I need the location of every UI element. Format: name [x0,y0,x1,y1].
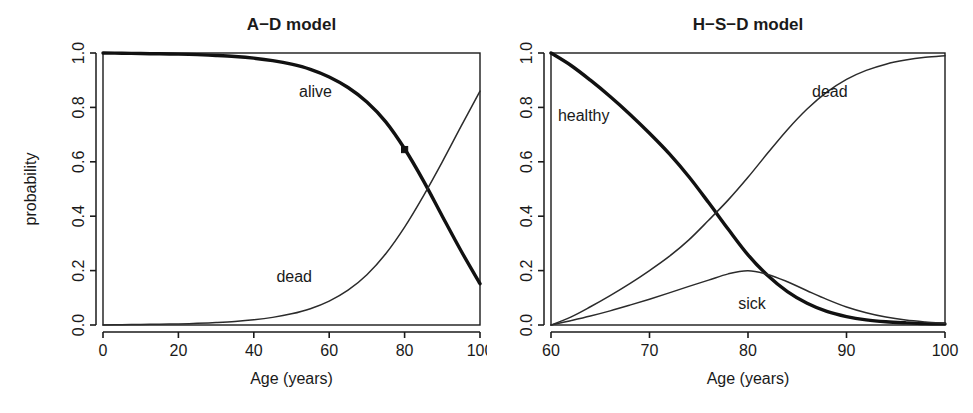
y-tick-label: 0.8 [70,96,87,118]
chart-title: A−D model [247,15,336,34]
x-tick-label: 80 [739,342,757,359]
y-tick-label: 0.0 [518,314,535,336]
y-tick-label: 0.4 [518,205,535,227]
x-tick-label: 70 [641,342,659,359]
chart-a-d-model: A−D model020406080100Age (years)0.00.20.… [0,0,487,413]
x-tick-label: 80 [396,342,414,359]
series-label-sick: sick [738,295,767,312]
y-tick-label: 0.4 [70,205,87,227]
y-tick-label: 0.8 [518,96,535,118]
x-tick-label: 40 [245,342,263,359]
y-tick-label: 0.2 [70,259,87,281]
x-tick-label: 100 [932,342,959,359]
series-curve-dead [103,91,480,325]
series-curve-alive [103,53,480,284]
y-tick-label: 0.6 [518,151,535,173]
x-tick-label: 60 [542,342,560,359]
x-tick-label: 60 [320,342,338,359]
series-curve-healthy [551,53,945,324]
series-label-healthy: healthy [558,107,610,124]
y-tick-label: 0.2 [518,259,535,281]
x-tick-label: 90 [838,342,856,359]
y-tick-label: 0.0 [70,314,87,336]
x-tick-label: 20 [170,342,188,359]
y-tick-label: 0.6 [70,151,87,173]
x-axis-label: Age (years) [707,370,790,387]
x-tick-label: 100 [467,342,487,359]
y-axis-label: probability [22,153,39,226]
chart-title: H−S−D model [693,15,804,34]
series-label-alive: alive [299,83,332,100]
panel-a-d-model: A−D model020406080100Age (years)0.00.20.… [0,0,487,413]
figure-two-panel-probability-plots: A−D model020406080100Age (years)0.00.20.… [0,0,973,413]
series-label-dead: dead [276,268,312,285]
series-label-dead: dead [812,83,848,100]
y-tick-label: 1.0 [70,42,87,64]
x-tick-label: 0 [99,342,108,359]
data-point-marker-alive [402,146,408,152]
y-tick-label: 1.0 [518,42,535,64]
x-axis-label: Age (years) [250,370,333,387]
panel-h-s-d-model: H−S−D model60708090100Age (years)0.00.20… [487,0,973,413]
plot-box [551,53,945,325]
chart-h-s-d-model: H−S−D model60708090100Age (years)0.00.20… [487,0,973,413]
